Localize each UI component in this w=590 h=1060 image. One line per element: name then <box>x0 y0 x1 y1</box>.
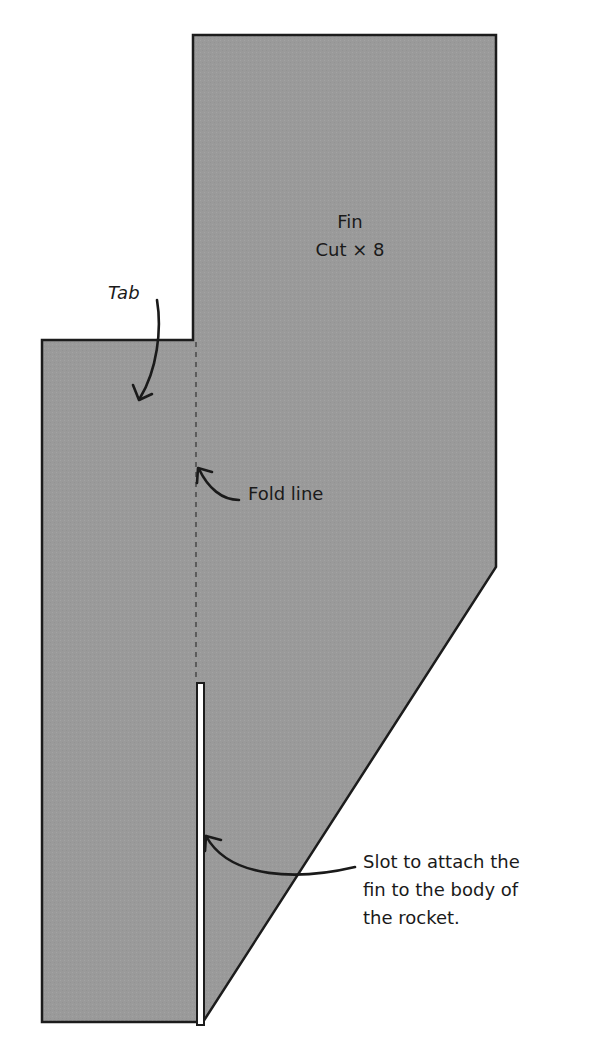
slot-label-line-1: Slot to attach the <box>363 848 520 876</box>
slot-label: Slot to attach the fin to the body of th… <box>363 848 520 932</box>
piece-name: Fin <box>280 208 420 236</box>
slot-label-line-2: fin to the body of <box>363 876 520 904</box>
fold-line-label: Fold line <box>248 483 323 504</box>
cut-instruction: Cut × 8 <box>280 236 420 264</box>
slot-label-line-3: the rocket. <box>363 904 520 932</box>
tab-label: Tab <box>108 282 140 303</box>
fin-title-label: Fin Cut × 8 <box>280 208 420 264</box>
slot-cutout <box>197 683 204 1025</box>
